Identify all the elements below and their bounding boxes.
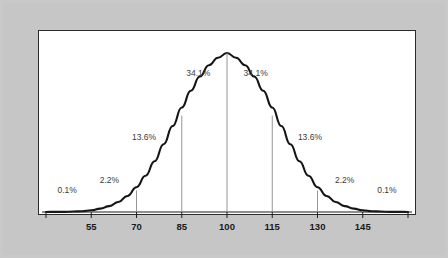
figure-frame: 55 70 85 100 115 130 145 0.1% 2.2% 13.6%… <box>0 0 448 258</box>
plot-panel <box>38 30 416 215</box>
x-axis-tick-labels: 55 70 85 100 115 130 145 <box>86 221 371 232</box>
x-tick-label-100: 100 <box>219 221 235 232</box>
x-tick-label-145: 145 <box>355 221 372 232</box>
x-tick-label-130: 130 <box>310 221 326 232</box>
x-tick-label-70: 70 <box>131 221 142 232</box>
x-tick-label-55: 55 <box>86 221 97 232</box>
x-tick-label-85: 85 <box>176 221 187 232</box>
x-tick-label-115: 115 <box>265 221 281 232</box>
